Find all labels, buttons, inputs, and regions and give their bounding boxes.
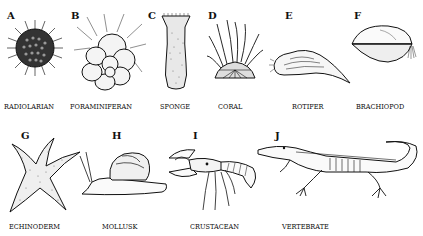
starfish-icon xyxy=(4,136,80,220)
sponge-icon xyxy=(158,13,194,95)
panel-caption: VERTEBRATE xyxy=(282,222,329,231)
panel-caption: CORAL xyxy=(218,102,242,111)
panel-caption: MOLLUSK xyxy=(102,222,137,231)
rotifer-icon xyxy=(270,45,355,87)
coral-icon xyxy=(205,16,265,80)
panel-caption: SPONGE xyxy=(160,102,190,111)
panel-caption: ROTIFER xyxy=(292,102,324,111)
panel-letter: E xyxy=(285,10,293,21)
radiolarian-icon xyxy=(5,18,65,78)
panel-caption: BRACHIOPOD xyxy=(356,102,404,111)
crocodile-skeleton-icon xyxy=(256,138,421,204)
brachiopod-icon xyxy=(350,22,420,68)
panel-caption: ECHINODERM xyxy=(9,222,60,231)
panel-caption: CRUSTACEAN xyxy=(190,222,239,231)
foraminiferan-icon xyxy=(72,12,147,94)
crayfish-icon xyxy=(165,146,265,216)
panel-letter: I xyxy=(193,130,198,141)
panel-caption: FORAMINIFERAN xyxy=(70,102,132,111)
panel-letter: F xyxy=(354,10,361,21)
snail-icon xyxy=(78,150,170,202)
panel-letter: C xyxy=(148,10,156,21)
panel-caption: RADIOLARIAN xyxy=(4,102,54,111)
panel-letter: H xyxy=(112,130,121,141)
